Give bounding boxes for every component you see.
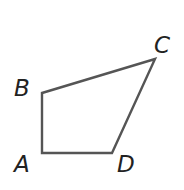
quadrilateral-abcd bbox=[42, 59, 155, 153]
vertex-label-d: D bbox=[117, 153, 135, 176]
vertex-label-b: B bbox=[14, 77, 30, 100]
quadrilateral-diagram: A B C D bbox=[0, 0, 184, 190]
vertex-label-a: A bbox=[14, 153, 30, 176]
vertex-label-c: C bbox=[154, 34, 170, 57]
